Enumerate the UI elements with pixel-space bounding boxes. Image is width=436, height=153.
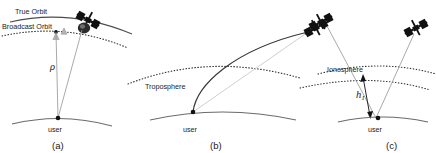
ionosphere-height-symbol: h <box>356 89 361 100</box>
panel-caption-c: (c) <box>386 140 397 151</box>
satellite-body-highlight <box>80 24 85 28</box>
broadcast-orbit-label: Broadcast Orbit <box>2 22 52 31</box>
user-label-c: user <box>368 125 383 134</box>
satellite-icon-c-right <box>401 14 431 41</box>
user-marker-icon-a <box>56 116 61 121</box>
panel-c: Ionosphere h I user (c) <box>300 8 436 151</box>
orbit-position-marker-icon-triangle-right <box>61 28 67 34</box>
user-label-b: user <box>183 125 198 134</box>
true-orbit-label: True Orbit <box>15 7 47 16</box>
signal-line-right <box>376 34 414 118</box>
earth-surface-arc-a <box>12 118 112 126</box>
ionosphere-height-subscript: I <box>361 94 365 101</box>
range-symbol-label: ρ <box>49 61 55 72</box>
range-line-broadcast <box>56 32 58 118</box>
user-marker-icon-b <box>191 110 196 115</box>
panel-b: Troposphere user (b) <box>128 14 331 151</box>
panel-caption-b: (b) <box>210 140 222 151</box>
user-label-a: user <box>48 125 63 134</box>
troposphere-label: Troposphere <box>145 82 186 91</box>
straight-line-of-sight <box>193 32 308 112</box>
earth-surface-arc-b <box>150 112 296 120</box>
earth-surface-arc-c <box>338 117 428 122</box>
range-line-true <box>58 30 82 118</box>
panel-caption-a: (a) <box>52 140 64 151</box>
panel-a: True Orbit Broadcast Orbit ρ user (a) <box>2 6 132 151</box>
ionosphere-label: Ionosphere <box>327 65 363 74</box>
figure-canvas: True Orbit Broadcast Orbit ρ user (a) Tr <box>0 0 436 153</box>
user-marker-icon-c <box>376 116 381 121</box>
gnss-error-sources-figure: True Orbit Broadcast Orbit ρ user (a) Tr <box>0 0 436 153</box>
